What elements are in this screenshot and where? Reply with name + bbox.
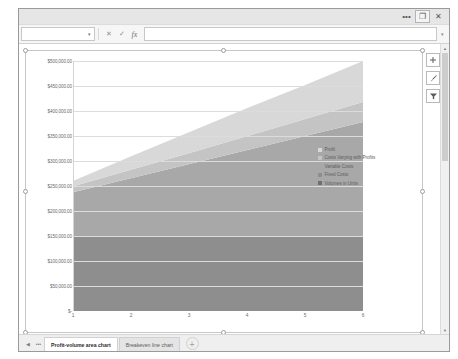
sheet-tab-bar: ◀ ••• Profit-volume area chartBreakeven … [19, 334, 449, 351]
y-axis-tick-label: $450,000.00 [48, 84, 72, 89]
y-axis[interactable]: $500,000.00$450,000.00$400,000.00$350,00… [28, 61, 72, 311]
chevron-down-icon[interactable]: ▾ [88, 31, 91, 37]
legend-swatch [318, 181, 322, 185]
area-series[interactable] [74, 236, 363, 311]
x-axis-tick-label: 4 [246, 313, 249, 318]
y-axis-tick-label: $400,000.00 [48, 109, 72, 114]
vertical-scrollbar[interactable]: ▲ ▼ [440, 44, 449, 334]
add-sheet-button[interactable]: ＋ [186, 337, 199, 350]
legend-swatch [318, 173, 322, 177]
x-axis-tick-label: 3 [188, 313, 191, 318]
y-axis-tick-label: $300,000.00 [48, 159, 72, 164]
x-axis-tick-label: 1 [72, 313, 75, 318]
sheet-tab[interactable]: Breakeven line chart [119, 337, 180, 351]
legend-item[interactable]: Volumes in Units [318, 181, 418, 186]
cancel-formula-icon[interactable]: ✕ [102, 27, 115, 41]
y-axis-tick-label: $50,000.00 [50, 284, 72, 289]
resize-handle-bottom-right[interactable] [420, 330, 425, 334]
legend-item[interactable]: Costs Varying with Profits [318, 155, 418, 160]
y-axis-tick-label: $500,000.00 [48, 59, 72, 64]
expand-formula-bar-icon[interactable]: ▾ [437, 31, 447, 37]
legend-swatch [318, 164, 322, 168]
divider [98, 28, 99, 40]
plus-icon [429, 56, 437, 64]
chart-elements-button[interactable] [426, 53, 440, 67]
chart-plot-wrapper: $500,000.00$450,000.00$400,000.00$350,00… [26, 51, 422, 332]
x-axis-tick-label: 2 [130, 313, 133, 318]
excel-window: ••• ❐ ✕ ▾ ✕ ✓ fx ▾ $500,00 [18, 8, 450, 352]
gridline [74, 261, 363, 262]
legend-item[interactable]: Fixed Costs [318, 172, 418, 177]
insert-function-icon[interactable]: fx [128, 27, 141, 41]
gridline [74, 286, 363, 287]
x-axis-tick-label: 5 [304, 313, 307, 318]
resize-handle-top-left[interactable] [23, 48, 28, 53]
window-titlebar: ••• ❐ ✕ [19, 9, 449, 25]
legend-label: Variable Costs [325, 164, 354, 169]
gridline [74, 211, 363, 212]
legend-label: Fixed Costs [325, 172, 349, 177]
gridline [74, 236, 363, 237]
close-icon[interactable]: ✕ [431, 10, 446, 23]
formula-bar: ▾ ✕ ✓ fx ▾ [19, 25, 449, 44]
legend-item[interactable]: Profit [318, 147, 418, 152]
sheet-nav-more-icon[interactable]: ••• [33, 337, 44, 351]
gridline [74, 136, 363, 137]
chart-object[interactable]: $500,000.00$450,000.00$400,000.00$350,00… [25, 50, 423, 333]
gridline [74, 61, 363, 62]
y-axis-tick-label: $200,000.00 [48, 209, 72, 214]
scroll-down-icon[interactable]: ▼ [441, 326, 449, 334]
sheet-tabs: Profit-volume area chartBreakeven line c… [44, 337, 181, 351]
chart-tool-buttons [426, 53, 441, 107]
formula-input[interactable] [144, 27, 437, 41]
chart-legend[interactable]: ProfitCosts Varying with ProfitsVariable… [318, 147, 418, 189]
sheet-tab[interactable]: Profit-volume area chart [44, 337, 118, 351]
worksheet-surface[interactable]: $500,000.00$450,000.00$400,000.00$350,00… [19, 44, 449, 334]
resize-handle-top-right[interactable] [420, 48, 425, 53]
y-axis-tick-label: $250,000.00 [48, 184, 72, 189]
resize-handle-top-center[interactable] [221, 48, 226, 53]
legend-label: Costs Varying with Profits [325, 155, 376, 160]
legend-swatch [318, 156, 322, 160]
paintbrush-icon [429, 74, 438, 83]
legend-label: Profit [325, 147, 335, 152]
resize-handle-bottom-center[interactable] [221, 330, 226, 334]
x-axis-tick-label: 6 [362, 313, 365, 318]
resize-handle-middle-left[interactable] [23, 189, 28, 194]
legend-swatch [318, 148, 322, 152]
sheet-nav-first-icon[interactable]: ◀ [22, 337, 33, 351]
chart-styles-button[interactable] [426, 71, 440, 85]
legend-label: Volumes in Units [325, 181, 358, 186]
filter-funnel-icon [429, 92, 438, 101]
confirm-formula-icon[interactable]: ✓ [115, 27, 128, 41]
horizontal-scroll-area[interactable] [207, 337, 449, 351]
scroll-up-icon[interactable]: ▲ [441, 44, 449, 52]
resize-handle-bottom-left[interactable] [23, 330, 28, 334]
y-axis-tick-label: $100,000.00 [48, 259, 72, 264]
x-axis[interactable]: 123456 [73, 313, 363, 325]
scrollbar-thumb[interactable] [442, 53, 448, 161]
window-menu-icon[interactable]: ••• [399, 10, 414, 23]
resize-handle-middle-right[interactable] [420, 189, 425, 194]
chart-filters-button[interactable] [426, 89, 440, 103]
y-axis-tick-label: $150,000.00 [48, 234, 72, 239]
y-axis-tick-label: $350,000.00 [48, 134, 72, 139]
gridline [74, 111, 363, 112]
name-box[interactable]: ▾ [21, 27, 95, 41]
legend-item[interactable]: Variable Costs [318, 164, 418, 169]
gridline [74, 86, 363, 87]
restore-icon[interactable]: ❐ [415, 10, 430, 23]
